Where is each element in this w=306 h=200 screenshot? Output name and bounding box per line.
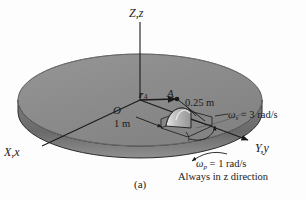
axis-label-z: Z,z <box>129 7 143 19</box>
dimension-label-1m: 1 m <box>114 119 130 130</box>
diagram-canvas <box>0 0 306 200</box>
direction-note: Always in z direction <box>178 172 268 183</box>
axis-label-y: Y,y <box>255 142 269 154</box>
omega-spin-label: ωs = 3 rad/s <box>228 110 278 122</box>
vector-label-ra-subscript: A <box>143 93 148 102</box>
dimension-label-025m: 0.25 m <box>185 98 214 109</box>
axis-label-x: X,x <box>4 146 20 158</box>
vector-label-ra: rA <box>139 89 148 102</box>
omega-precession-value: = 1 rad/s <box>207 158 246 169</box>
figure-container: Z,z X,x Y,y rA A O 1 m 0.25 m ωs = 3 rad… <box>0 0 306 200</box>
point-label-a: A <box>167 88 174 99</box>
omega-precession-label: ωp = 1 rad/s <box>196 159 246 171</box>
omega-spin-value: = 3 rad/s <box>238 109 277 120</box>
origin-label-o: O <box>113 105 121 116</box>
figure-caption: (a) <box>134 179 146 190</box>
